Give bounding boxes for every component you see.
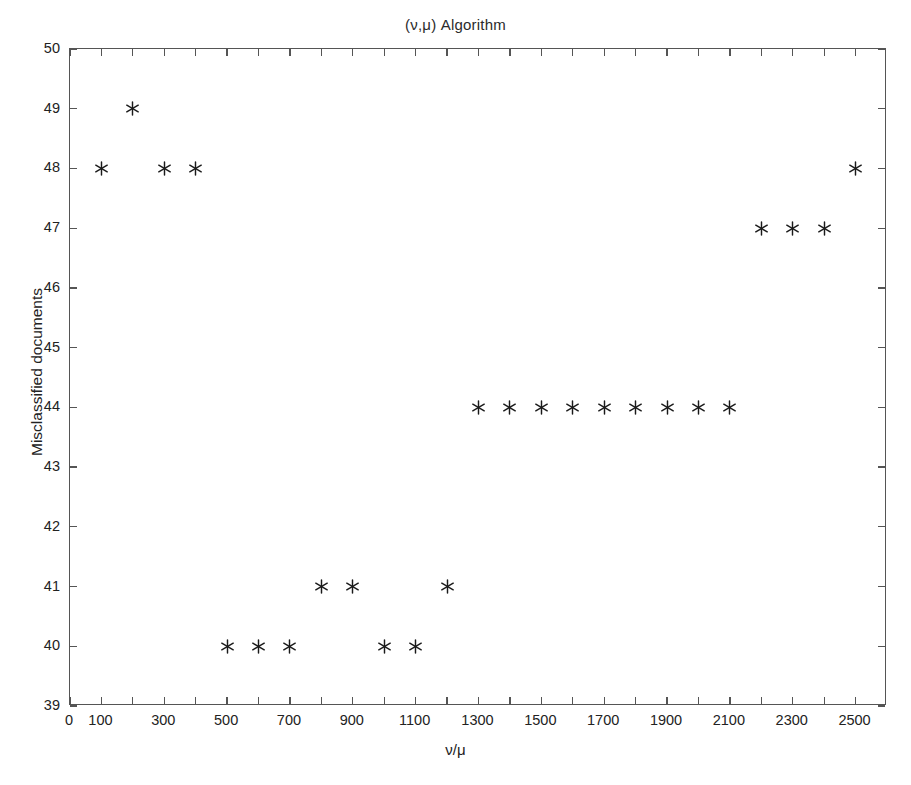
data-point <box>314 579 329 594</box>
y-tick-41 <box>70 586 77 587</box>
x-tick-2100 <box>729 697 730 704</box>
x-tick-top-0 <box>69 49 70 56</box>
x-tick-100 <box>101 697 102 704</box>
x-tick-800 <box>321 697 322 704</box>
data-point <box>251 639 266 654</box>
data-point <box>534 400 549 415</box>
y-tick-right-45 <box>878 347 885 348</box>
data-point <box>94 161 109 176</box>
x-tick-label-1900: 1900 <box>650 712 682 728</box>
data-point <box>188 161 203 176</box>
data-point <box>345 579 360 594</box>
y-tick-40 <box>70 646 77 647</box>
x-tick-top-2400 <box>824 49 825 56</box>
y-tick-right-46 <box>878 287 885 288</box>
x-tick-label-2100: 2100 <box>713 712 745 728</box>
x-tick-top-200 <box>132 49 133 56</box>
y-tick-44 <box>70 407 77 408</box>
data-point <box>722 400 737 415</box>
y-tick-49 <box>70 108 77 109</box>
x-tick-top-1600 <box>572 49 573 56</box>
y-axis-label: Misclassified documents <box>28 52 46 692</box>
x-tick-top-1700 <box>604 49 605 56</box>
x-tick-2400 <box>824 697 825 704</box>
y-tick-45 <box>70 347 77 348</box>
x-tick-top-2500 <box>855 49 856 56</box>
x-tick-label-1100: 1100 <box>399 712 430 728</box>
data-point <box>785 221 800 236</box>
x-tick-2500 <box>855 697 856 704</box>
y-tick-right-39 <box>878 705 885 706</box>
y-tick-43 <box>70 466 77 467</box>
data-point <box>220 639 235 654</box>
data-point <box>282 639 297 654</box>
chart-title: (ν,μ) Algorithm <box>0 16 911 33</box>
x-tick-2300 <box>792 697 793 704</box>
x-tick-1700 <box>604 697 605 704</box>
x-tick-2000 <box>698 697 699 704</box>
x-tick-label-900: 900 <box>340 712 364 728</box>
y-tick-42 <box>70 526 77 527</box>
y-tick-right-49 <box>878 108 885 109</box>
x-tick-1900 <box>666 697 667 704</box>
y-tick-39 <box>70 705 77 706</box>
x-tick-900 <box>352 697 353 704</box>
x-tick-2200 <box>761 697 762 704</box>
data-point <box>408 639 423 654</box>
x-tick-600 <box>258 697 259 704</box>
y-tick-47 <box>70 228 77 229</box>
x-tick-label-1500: 1500 <box>524 712 556 728</box>
y-tick-46 <box>70 287 77 288</box>
x-axis-label: ν/μ <box>0 741 911 758</box>
data-point <box>848 161 863 176</box>
y-tick-label-39: 39 <box>24 697 60 713</box>
data-point <box>377 639 392 654</box>
x-tick-0 <box>69 697 70 704</box>
x-tick-top-2000 <box>698 49 699 56</box>
data-point <box>502 400 517 415</box>
x-tick-top-1000 <box>384 49 385 56</box>
plot-area <box>69 48 886 705</box>
x-tick-top-1800 <box>635 49 636 56</box>
x-tick-label-0: 0 <box>65 712 73 728</box>
y-tick-right-41 <box>878 586 885 587</box>
x-tick-1300 <box>478 697 479 704</box>
x-tick-label-1300: 1300 <box>461 712 493 728</box>
y-tick-50 <box>70 48 77 49</box>
x-tick-top-700 <box>289 49 290 56</box>
figure-canvas: (ν,μ) Algorithm 010030050070090011001300… <box>0 0 911 785</box>
x-tick-top-1500 <box>541 49 542 56</box>
data-point <box>471 400 486 415</box>
x-tick-top-1100 <box>415 49 416 56</box>
x-tick-top-400 <box>195 49 196 56</box>
x-tick-top-500 <box>226 49 227 56</box>
x-tick-label-2300: 2300 <box>776 712 808 728</box>
x-tick-500 <box>226 697 227 704</box>
data-point <box>754 221 769 236</box>
data-point <box>691 400 706 415</box>
y-tick-48 <box>70 168 77 169</box>
x-tick-label-1700: 1700 <box>587 712 619 728</box>
x-tick-top-1400 <box>509 49 510 56</box>
x-tick-label-700: 700 <box>277 712 301 728</box>
y-tick-right-44 <box>878 407 885 408</box>
x-tick-1400 <box>509 697 510 704</box>
x-tick-label-100: 100 <box>88 712 112 728</box>
data-point <box>597 400 612 415</box>
data-point <box>125 101 140 116</box>
x-tick-700 <box>289 697 290 704</box>
x-tick-1600 <box>572 697 573 704</box>
x-tick-top-100 <box>101 49 102 56</box>
y-tick-right-40 <box>878 646 885 647</box>
x-tick-top-1300 <box>478 49 479 56</box>
data-point <box>440 579 455 594</box>
x-tick-top-800 <box>321 49 322 56</box>
x-tick-1500 <box>541 697 542 704</box>
data-point <box>565 400 580 415</box>
x-tick-400 <box>195 697 196 704</box>
data-point <box>628 400 643 415</box>
x-tick-1100 <box>415 697 416 704</box>
x-tick-200 <box>132 697 133 704</box>
x-tick-top-1200 <box>446 49 447 56</box>
data-point <box>660 400 675 415</box>
